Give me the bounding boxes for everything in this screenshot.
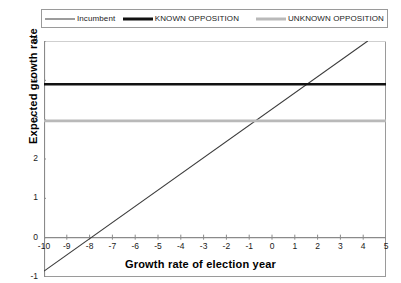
y-tick-label: 1 <box>18 192 38 202</box>
legend-item-unknown-opposition: UNKNOWN OPPOSITION <box>256 14 384 23</box>
y-tick-label: 4 <box>18 74 38 84</box>
y-tick-label: 5 <box>18 35 38 45</box>
x-tick-label: 1 <box>284 241 306 251</box>
legend-swatch-incumbent-icon <box>45 15 75 22</box>
legend-label-known-opposition: KNOWN OPPOSITION <box>155 14 239 23</box>
x-tick-label: -8 <box>79 241 101 251</box>
legend-swatch-known-opposition-icon <box>123 15 153 22</box>
x-tick-label: -5 <box>147 241 169 251</box>
chart-figure: Incumbent KNOWN OPPOSITION UNKNOWN OPPOS… <box>0 0 401 283</box>
x-tick-label: -3 <box>193 241 215 251</box>
series-line-incumbent <box>44 41 368 271</box>
plot-area: -1012345-10-9-8-7-6-5-4-3-2-1012345 <box>44 41 386 277</box>
legend-label-incumbent: Incumbent <box>77 14 115 23</box>
x-tick-label: 5 <box>375 241 397 251</box>
y-tick-label: 2 <box>18 153 38 163</box>
x-tick-label: 0 <box>261 241 283 251</box>
x-tick-label: -2 <box>215 241 237 251</box>
legend-item-known-opposition: KNOWN OPPOSITION <box>123 14 239 23</box>
x-tick-label: -6 <box>124 241 146 251</box>
x-tick-label: 2 <box>307 241 329 251</box>
x-tick-label: -10 <box>33 241 55 251</box>
x-tick-label: 4 <box>352 241 374 251</box>
chart-legend: Incumbent KNOWN OPPOSITION UNKNOWN OPPOS… <box>41 9 388 28</box>
x-tick-label: -9 <box>56 241 78 251</box>
legend-item-incumbent: Incumbent <box>45 14 115 23</box>
y-tick-label: 3 <box>18 114 38 124</box>
y-tick-label: -1 <box>18 271 38 281</box>
y-axis-title: Expected growth rate <box>27 6 39 166</box>
x-tick-label: 3 <box>329 241 351 251</box>
legend-swatch-unknown-opposition-icon <box>256 15 286 22</box>
x-tick-label: -1 <box>238 241 260 251</box>
x-tick-label: -7 <box>101 241 123 251</box>
x-tick-label: -4 <box>170 241 192 251</box>
legend-label-unknown-opposition: UNKNOWN OPPOSITION <box>288 14 384 23</box>
